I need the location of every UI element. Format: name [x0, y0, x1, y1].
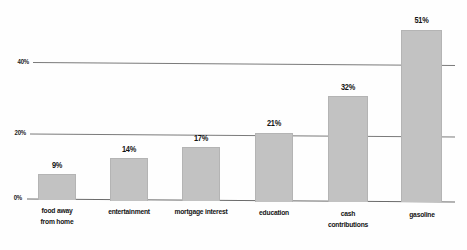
bar-label-line1: food away — [28, 205, 87, 216]
bar-label-education: education — [245, 207, 304, 218]
bar-cash-contributions[interactable] — [328, 96, 368, 202]
bar-label-line1: gasoline — [393, 209, 452, 220]
bar-value-education: 21% — [258, 118, 289, 128]
bar-label-line1: mortgage interest — [167, 206, 234, 217]
bar-label-line1: education — [245, 207, 304, 218]
bar-gasoline[interactable] — [401, 30, 442, 202]
bar-value-food-away-from-home: 9% — [41, 160, 72, 170]
y-tick-20: 20% — [7, 129, 26, 136]
bar-value-cash-contributions: 32% — [332, 82, 365, 92]
bar-label-cash-contributions: cash contributions — [319, 208, 378, 230]
bar-label-mortgage-interest: mortgage interest — [167, 206, 234, 217]
plot-area: 40% 20% 0% 9% food away from home 14% en… — [0, 0, 467, 250]
y-tick-40: 40% — [10, 58, 29, 65]
bar-mortgage-interest[interactable] — [182, 147, 220, 201]
bar-education[interactable] — [255, 133, 293, 202]
bar-chart: 40% 20% 0% 9% food away from home 14% en… — [0, 0, 467, 250]
gridline-20 — [30, 134, 455, 137]
bar-label-line2: contributions — [319, 219, 378, 230]
bar-label-gasoline: gasoline — [393, 209, 452, 220]
bar-label-line1: cash — [319, 208, 378, 219]
bar-value-gasoline: 51% — [405, 15, 439, 25]
bar-entertainment[interactable] — [110, 158, 148, 201]
y-tick-0: 0% — [3, 194, 22, 201]
axis-baseline — [27, 199, 455, 202]
gridline-40 — [33, 63, 455, 66]
bar-label-entertainment: entertainment — [100, 206, 159, 217]
bar-label-food-away-from-home: food away from home — [28, 205, 87, 227]
bar-label-line1: entertainment — [100, 206, 159, 217]
bar-food-away-from-home[interactable] — [38, 174, 76, 200]
bar-value-mortgage-interest: 17% — [185, 133, 216, 143]
bar-value-entertainment: 14% — [113, 144, 144, 154]
bar-label-line2: from home — [28, 216, 87, 227]
